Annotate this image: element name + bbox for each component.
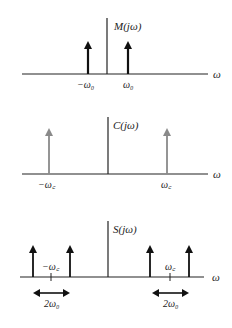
arrow-head-right-icon — [63, 289, 70, 297]
impulse-pos-omegac: ω꜀ — [161, 128, 172, 190]
omega-axis-label: ω — [212, 271, 220, 283]
arrow-head-left-icon — [33, 289, 40, 297]
bandwidth-span-right: 2ω₀ — [152, 289, 189, 309]
impulse-pos-omega0: ω₀ — [123, 41, 134, 90]
spectrum-diagram: M(jω) ω −ω₀ ω₀ C(jω) ω −ω꜀ ω꜀ — [0, 0, 232, 328]
impulse-label: ω꜀ — [161, 179, 172, 190]
impulse-label: −ω꜀ — [38, 179, 56, 190]
span-label: 2ω₀ — [163, 298, 179, 309]
arrow-head-icon — [45, 128, 53, 136]
center-tick-label: ω꜀ — [165, 261, 176, 272]
impulse-label: −ω₀ — [77, 79, 95, 90]
panel-title: C(jω) — [113, 119, 139, 132]
arrow-head-icon — [84, 41, 92, 49]
arrow-head-left-icon — [152, 289, 159, 297]
arrow-head-icon — [163, 128, 171, 136]
panel-title: M(jω) — [113, 20, 142, 33]
span-label: 2ω₀ — [44, 298, 60, 309]
center-tick-label: −ω꜀ — [42, 261, 60, 272]
impulse-neg-omega0: −ω₀ — [77, 41, 95, 90]
impulse-group-negative: −ω꜀ — [29, 245, 74, 281]
arrow-head-icon — [185, 245, 193, 253]
arrow-head-icon — [146, 245, 154, 253]
impulse-label: ω₀ — [123, 79, 134, 90]
bandwidth-span-left: 2ω₀ — [33, 289, 70, 309]
impulse-group-positive: ω꜀ — [146, 245, 193, 281]
arrow-head-right-icon — [182, 289, 189, 297]
panel-message-spectrum: M(jω) ω −ω₀ ω₀ — [22, 18, 221, 90]
arrow-head-icon — [66, 245, 74, 253]
omega-axis-label: ω — [213, 168, 221, 180]
panel-title: S(jω) — [113, 223, 137, 236]
arrow-head-icon — [124, 41, 132, 49]
omega-axis-label: ω — [213, 68, 221, 80]
panel-modulated-spectrum: S(jω) ω −ω꜀ ω꜀ 2ω₀ 2ω₀ — [20, 221, 220, 309]
arrow-head-icon — [29, 245, 37, 253]
impulse-neg-omegac: −ω꜀ — [38, 128, 56, 190]
panel-carrier-spectrum: C(jω) ω −ω꜀ ω꜀ — [22, 117, 221, 190]
